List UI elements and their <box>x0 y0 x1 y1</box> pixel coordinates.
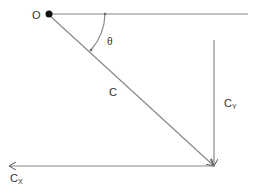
arc-tick-end <box>90 49 93 52</box>
vector-c-label: C <box>109 86 117 98</box>
vector-c <box>48 14 214 166</box>
origin-label: O <box>32 9 41 21</box>
cy-label: CY <box>224 97 237 110</box>
angle-label: θ <box>107 36 113 47</box>
angle-arc <box>91 14 105 50</box>
vector-diagram: O θ C CY CX <box>0 0 258 193</box>
arc-tick-start <box>104 13 107 16</box>
cx-label: CX <box>10 172 23 185</box>
origin-dot <box>46 11 53 18</box>
